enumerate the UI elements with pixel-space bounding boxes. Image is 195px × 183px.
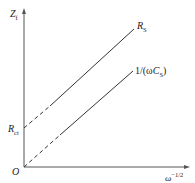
x-axis-arrow-icon: [184, 165, 190, 169]
cs-label: 1/(ωCS): [135, 66, 166, 79]
rs-label: RS: [137, 21, 147, 34]
rct-label: Rct: [8, 124, 19, 137]
impedance-plot: [0, 0, 195, 183]
cs-line-solid: [60, 71, 133, 135]
origin-label: O: [12, 167, 19, 177]
rs-line-dashed: [24, 106, 50, 128]
cs-line-dashed: [24, 135, 60, 167]
y-axis-label: Zf: [10, 9, 18, 22]
x-axis-label: ω−1/2: [165, 172, 183, 183]
rs-line-solid: [50, 29, 134, 106]
y-axis-arrow-icon: [22, 8, 26, 14]
